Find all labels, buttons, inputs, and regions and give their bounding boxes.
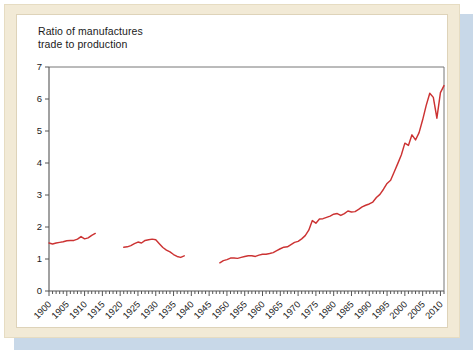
x-tick-label: 1980 [317, 299, 339, 321]
x-tick-label-group: 1925 [121, 299, 143, 321]
x-tick-label: 1900 [32, 299, 54, 321]
x-tick-label-group: 1990 [352, 299, 374, 321]
x-tick-label: 1990 [352, 299, 374, 321]
x-tick-label-group: 1900 [32, 299, 54, 321]
y-tick-label: 4 [37, 157, 42, 168]
x-tick-label-group: 1920 [103, 299, 125, 321]
chart-card: Ratio of manufactures trade to productio… [16, 14, 448, 328]
x-tick-label: 1905 [50, 299, 72, 321]
x-tick-label: 2005 [405, 299, 427, 321]
x-tick-label-group: 1910 [67, 299, 89, 321]
x-tick-label-group: 1935 [156, 299, 178, 321]
x-tick-label: 1975 [299, 299, 321, 321]
x-tick-label: 1995 [370, 299, 392, 321]
x-tick-label-group: 1985 [334, 299, 356, 321]
x-tick-label-group: 1975 [299, 299, 321, 321]
x-tick-label: 1920 [103, 299, 125, 321]
plot-box-border [49, 67, 444, 291]
series-line-pre-World-War-I [49, 233, 95, 244]
x-tick-label-group: 1950 [210, 299, 232, 321]
x-tick-label-group: 1945 [192, 299, 214, 321]
x-tick-label: 1925 [121, 299, 143, 321]
x-tick-label: 1910 [67, 299, 89, 321]
x-tick-label: 1965 [263, 299, 285, 321]
x-tick-label: 2000 [388, 299, 410, 321]
y-tick-label: 2 [37, 221, 42, 232]
x-tick-label-group: 2000 [388, 299, 410, 321]
x-tick-label-group: 1905 [50, 299, 72, 321]
x-tick-label: 1960 [245, 299, 267, 321]
y-tick-label: 5 [37, 125, 42, 136]
chart-plot: 0123456719001905191019151920192519301935… [17, 15, 449, 329]
y-tick-label: 6 [37, 93, 42, 104]
x-tick-label: 1985 [334, 299, 356, 321]
x-tick-label-group: 1940 [174, 299, 196, 321]
x-tick-label: 1940 [174, 299, 196, 321]
x-tick-label-group: 1995 [370, 299, 392, 321]
y-tick-label: 1 [37, 253, 42, 264]
x-tick-label: 2010 [423, 299, 445, 321]
y-tick-label: 0 [37, 285, 42, 296]
figure-root: Ratio of manufactures trade to productio… [0, 0, 473, 350]
x-tick-label: 1945 [192, 299, 214, 321]
x-tick-label: 1935 [156, 299, 178, 321]
y-tick-label: 7 [37, 61, 42, 72]
x-tick-label-group: 1980 [317, 299, 339, 321]
y-tick-label: 3 [37, 189, 42, 200]
x-tick-label: 1970 [281, 299, 303, 321]
series-line-interwar [124, 239, 184, 257]
x-tick-label: 1930 [139, 299, 161, 321]
x-tick-label-group: 1930 [139, 299, 161, 321]
x-tick-label-group: 1965 [263, 299, 285, 321]
x-tick-label-group: 1955 [228, 299, 250, 321]
x-tick-label-group: 1960 [245, 299, 267, 321]
x-tick-label: 1955 [228, 299, 250, 321]
x-tick-label-group: 2010 [423, 299, 445, 321]
plot-axes [49, 67, 444, 291]
x-tick-label: 1950 [210, 299, 232, 321]
series-line-post-World-War-II [220, 86, 444, 263]
x-tick-label: 1915 [85, 299, 107, 321]
x-tick-label-group: 1970 [281, 299, 303, 321]
x-tick-label-group: 2005 [405, 299, 427, 321]
x-tick-label-group: 1915 [85, 299, 107, 321]
